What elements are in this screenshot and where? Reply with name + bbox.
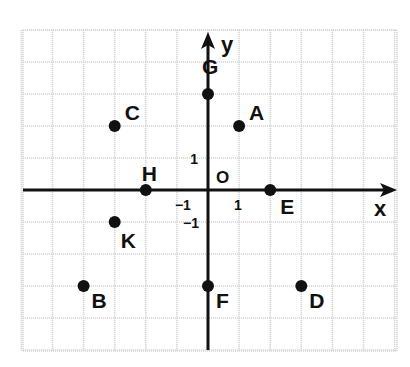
point-label-G: G [202, 55, 218, 78]
point-marker-B [78, 280, 90, 292]
point-marker-A [233, 120, 245, 132]
point-marker-C [109, 120, 121, 132]
point-A: A [233, 101, 264, 132]
point-label-F: F [216, 289, 229, 312]
tick-label-x: 1 [234, 197, 242, 213]
point-label-C: C [125, 101, 140, 124]
point-C: C [109, 101, 140, 132]
tick-label-x: −1 [175, 197, 191, 213]
point-D: D [295, 280, 324, 312]
point-B: B [78, 280, 107, 312]
axes: x y O [23, 32, 397, 350]
point-label-H: H [142, 162, 157, 185]
point-marker-H [140, 184, 152, 196]
tick-label-y: 1 [190, 151, 198, 167]
point-label-E: E [280, 195, 294, 218]
point-label-A: A [249, 101, 264, 124]
x-axis-label: x [374, 196, 387, 221]
point-label-K: K [121, 229, 136, 252]
coordinate-plane: x y O −111−1 ABCDEFGHK [0, 0, 410, 367]
y-axis-label: y [221, 32, 234, 57]
tick-label-y: −1 [183, 215, 199, 231]
origin-label: O [216, 168, 229, 187]
point-marker-D [295, 280, 307, 292]
point-marker-K [109, 216, 121, 228]
point-marker-G [202, 88, 214, 100]
point-marker-E [264, 184, 276, 196]
point-label-D: D [309, 289, 324, 312]
point-F: F [202, 280, 229, 312]
point-marker-F [202, 280, 214, 292]
point-label-B: B [92, 289, 107, 312]
